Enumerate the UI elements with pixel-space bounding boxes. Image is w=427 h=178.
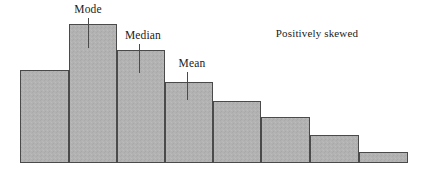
annotation-median: Median <box>125 29 161 42</box>
histogram-chart <box>0 0 427 178</box>
histogram-bar <box>262 118 310 163</box>
histogram-bar <box>21 71 69 163</box>
histogram-bar <box>118 51 165 163</box>
histogram-bar <box>70 25 117 163</box>
histogram-bar <box>214 102 261 163</box>
histogram-bar <box>311 136 359 163</box>
annotation-positively-skewed: Positively skewed <box>276 27 358 40</box>
annotation-mode: Mode <box>74 3 101 16</box>
histogram-figure: Mode Median Mean Positively skewed <box>0 0 427 178</box>
histogram-bar <box>360 153 408 163</box>
histogram-bar <box>166 83 213 163</box>
bars-group <box>21 25 408 163</box>
annotation-mean: Mean <box>179 57 206 70</box>
